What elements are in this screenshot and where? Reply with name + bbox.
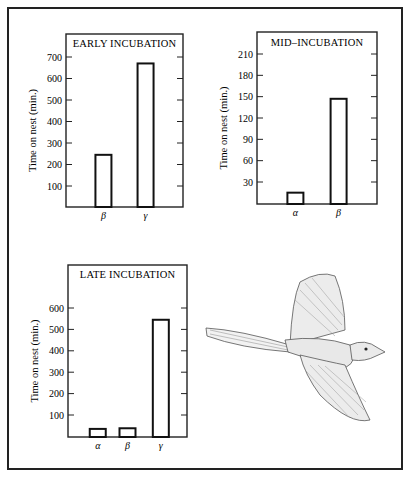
- bird-illustration: [0, 0, 411, 479]
